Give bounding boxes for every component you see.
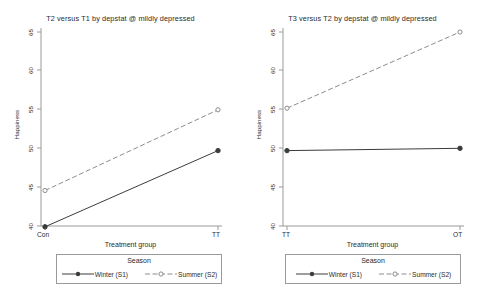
legend-entry-summer[interactable]: Summer (S2) <box>378 265 451 283</box>
y-tick-label: 45 <box>27 184 34 191</box>
y-tick-label: 60 <box>27 67 34 74</box>
plot-area-right <box>242 0 483 293</box>
legend-entries: Winter (S1) Summer (S2) <box>286 265 460 283</box>
y-tick-label: 55 <box>27 106 34 113</box>
chart-panel-right: T3 versus T2 by depstat @ mildly depress… <box>242 0 483 293</box>
legend-left: Season Winter (S1) <box>56 254 222 284</box>
legend-title: Season <box>286 257 460 264</box>
legend-key-solid-line-filled-marker <box>61 265 95 283</box>
figure-canvas: T2 versus T1 by depstat @ mildly depress… <box>0 0 483 293</box>
y-tick-label: 40 <box>269 223 276 230</box>
legend-label-summer: Summer (S2) <box>412 271 451 278</box>
y-tick-marks <box>279 32 283 226</box>
x-axis-title: Treatment group <box>10 241 251 248</box>
legend-entries: Winter (S1) Summer (S2) <box>57 265 221 283</box>
series-summer-right <box>285 30 462 110</box>
x-tick-marks <box>45 226 218 230</box>
chart-panel-left: T2 versus T1 by depstat @ mildly depress… <box>0 0 241 293</box>
series-winter-left <box>43 148 220 229</box>
y-tick-label: 40 <box>27 223 34 230</box>
legend-entry-winter[interactable]: Winter (S1) <box>295 265 362 283</box>
legend-title: Season <box>57 257 221 264</box>
x-tick-label: TT <box>212 231 220 238</box>
legend-key-dashed-line-open-marker <box>144 265 178 283</box>
y-tick-label: 50 <box>27 145 34 152</box>
y-tick-label: 55 <box>269 106 276 113</box>
x-axis-title: Treatment group <box>252 241 483 248</box>
y-tick-label: 65 <box>27 29 34 36</box>
x-tick-label: TT <box>282 231 290 238</box>
y-tick-label: 50 <box>269 145 276 152</box>
legend-label-summer: Summer (S2) <box>178 271 217 278</box>
y-tick-label: 65 <box>269 29 276 36</box>
y-tick-label: 45 <box>269 184 276 191</box>
series-winter-right <box>285 146 462 153</box>
y-tick-marks <box>37 32 41 226</box>
legend-right: Season Winter (S1) <box>285 254 461 284</box>
legend-label-winter: Winter (S1) <box>329 271 362 278</box>
legend-key-solid-line-filled-marker <box>295 265 329 283</box>
x-tick-label: Con <box>37 231 49 238</box>
x-tick-label: OT <box>453 231 462 238</box>
legend-label-winter: Winter (S1) <box>95 271 128 278</box>
y-tick-label: 60 <box>269 67 276 74</box>
legend-entry-summer[interactable]: Summer (S2) <box>144 265 217 283</box>
y-axis-title: Happiness <box>13 110 20 139</box>
plot-area-left <box>0 0 241 293</box>
legend-entry-winter[interactable]: Winter (S1) <box>61 265 128 283</box>
y-axis-title: Happiness <box>255 110 262 139</box>
series-summer-left <box>43 108 220 193</box>
legend-key-dashed-line-open-marker <box>378 265 412 283</box>
x-tick-marks <box>287 226 460 230</box>
